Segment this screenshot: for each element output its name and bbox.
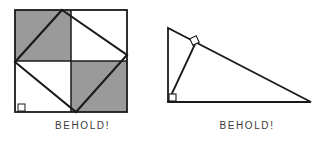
dissection-square-graphic xyxy=(0,0,165,120)
right-angle-marker-icon xyxy=(18,104,25,111)
figure-right-triangle: BEHOLD! xyxy=(165,0,329,146)
figure-caption-left: BEHOLD! xyxy=(0,120,165,132)
right-triangle-graphic xyxy=(165,0,329,120)
figure-dissection-square: BEHOLD! xyxy=(0,0,165,146)
diagram-sheet: BEHOLD! BEHOLD! xyxy=(0,0,329,146)
figure-caption-right: BEHOLD! xyxy=(165,120,329,132)
vertex-right-angle-marker-icon xyxy=(169,94,176,101)
